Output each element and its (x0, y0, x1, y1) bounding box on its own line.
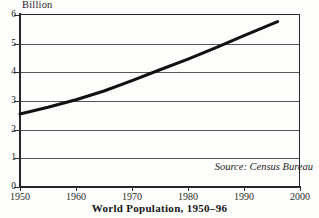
gridline (21, 72, 299, 73)
source-attribution: Source: Census Bureau (215, 161, 313, 172)
gridline (21, 158, 299, 159)
y-axis-tick-label: 2 (2, 125, 16, 135)
x-axis-tick-label: 1980 (168, 192, 208, 202)
x-axis-tick-label: 1990 (224, 192, 264, 202)
x-axis-tick-label: 1950 (0, 192, 40, 202)
y-axis-tick-label: 3 (2, 96, 16, 106)
gridline (21, 44, 299, 45)
world-population-line-chart: Billion 0123456 195019601970198019902000… (0, 0, 319, 218)
x-axis-tick-label: 2000 (280, 192, 319, 202)
y-axis-tick-label: 1 (2, 153, 16, 163)
y-axis-tick-label: 4 (2, 67, 16, 77)
y-axis-unit-label: Billion (22, 0, 53, 10)
x-axis-tick-label: 1970 (112, 192, 152, 202)
figure-caption: World Population, 1950–96 (0, 202, 319, 214)
x-axis-tick-label: 1960 (56, 192, 96, 202)
gridline (21, 130, 299, 131)
y-axis-tick-label: 6 (2, 10, 16, 20)
gridline (21, 101, 299, 102)
x-axis-spine (19, 186, 301, 188)
y-axis-tick-label: 5 (2, 39, 16, 49)
